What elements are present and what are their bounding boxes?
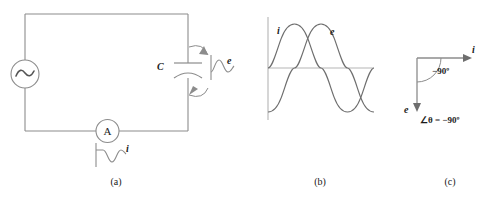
waveform-label-e: e xyxy=(330,26,334,37)
capacitor-plate-bottom xyxy=(174,73,202,78)
phasor-i-arrowhead xyxy=(463,54,472,62)
panel-caption-c: (c) xyxy=(430,176,470,187)
phasor-panel xyxy=(385,0,491,175)
figure-root: A C e i i e xyxy=(0,0,491,200)
ammeter-scope-label: i xyxy=(126,143,129,154)
panel-caption-a: (a) xyxy=(96,176,136,187)
capacitor-label: C xyxy=(157,61,164,72)
phase-angle-equation: ∠θ = −90º xyxy=(420,115,459,125)
phasor-e-arrowhead xyxy=(413,103,421,112)
phasor-voltage-e xyxy=(413,58,421,112)
capacitor-scope-label: e xyxy=(227,55,231,66)
waveform-label-i: i xyxy=(277,25,280,36)
phase-angle-arc-label: −90º xyxy=(432,66,449,76)
waveform-panel xyxy=(255,0,385,175)
current-scope-icon xyxy=(96,143,126,167)
phasor-label-e: e xyxy=(404,104,408,115)
phasor-current-i xyxy=(417,54,472,62)
ac-source-symbol xyxy=(11,60,39,88)
circuit-panel: A xyxy=(0,0,250,175)
capacitor-symbol xyxy=(174,63,202,78)
ammeter-letter: A xyxy=(104,125,112,137)
capacitor-probe-arrows xyxy=(189,46,208,97)
scope-trace-i xyxy=(96,150,126,162)
panel-caption-b: (b) xyxy=(300,176,340,187)
ammeter-symbol: A xyxy=(96,120,119,143)
phasor-label-i: i xyxy=(472,44,475,55)
